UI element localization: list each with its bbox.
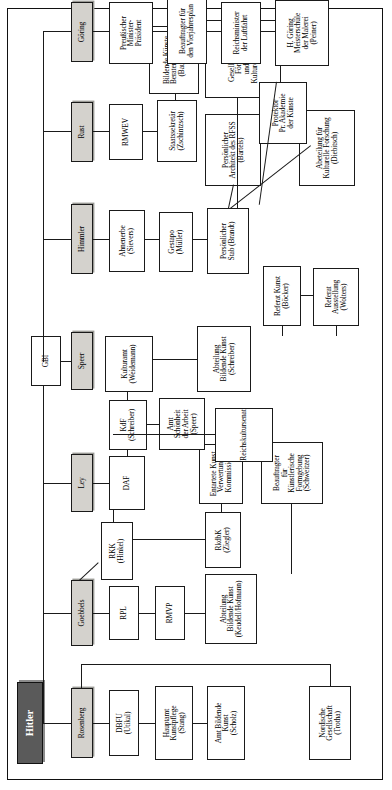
node-rmwev[interactable]: RMWEV xyxy=(109,104,143,160)
line-rkdbk-entartete xyxy=(221,503,222,512)
node-reichskultursenat-label: Reichskultursenat xyxy=(240,409,248,460)
line-hitler-ley-h xyxy=(43,483,44,614)
node-staatssekretaer-label: Staatssekretär(Zschintzsch) xyxy=(169,111,184,151)
node-dbfu[interactable]: DBFU(Utikal) xyxy=(109,690,139,756)
node-gbi[interactable]: GBI xyxy=(31,336,61,386)
line-staatssek-baudissin xyxy=(175,93,176,100)
line-persstab-gesellschaft xyxy=(237,97,238,208)
line-himmler-persstab xyxy=(193,239,207,240)
line-goering-preuss xyxy=(93,31,109,32)
node-ley-label: Ley xyxy=(78,477,86,488)
node-hitler[interactable]: Hitler xyxy=(17,682,43,764)
line-dbfu-hauptamt xyxy=(139,723,155,724)
node-protektor[interactable]: ProtektorPr. Akademieder Künste xyxy=(259,82,307,144)
line-hitler-ley xyxy=(43,483,71,484)
node-referat-kunst-label: Referat Kunst(Böcker) xyxy=(274,276,289,316)
node-gestapo[interactable]: Gestapo(Müller) xyxy=(159,212,193,272)
node-vierjahresplan-label: Beauftragter fürden Vierjahresplan xyxy=(179,4,194,58)
node-bartels-label: PersönlicherArchitekt des RFSS(Bartels) xyxy=(222,122,245,179)
node-nordische-label: NordischeGesellschaft(Trotha) xyxy=(319,705,342,740)
node-speer-label: Speer xyxy=(78,353,86,369)
line-hauptamt-amtbk xyxy=(193,723,207,724)
node-reichskultursenat[interactable]: Reichskultursenat xyxy=(215,408,273,462)
line-rpl-rmvp xyxy=(139,613,155,614)
node-kdf[interactable]: KdF(Schreiber) xyxy=(109,400,147,450)
node-abt-kulturelle-forschung-label: Abeteilung fürKulturelle Forschung(Diebi… xyxy=(316,118,339,179)
node-schweitzer-label: BeauftragterfürKünstlerischeFormgebung(S… xyxy=(273,453,311,492)
line-daf-kdf xyxy=(127,449,128,456)
node-goebbels[interactable]: Goebbels xyxy=(71,580,93,646)
node-rust-label: Rust xyxy=(78,125,86,138)
node-kulturamt[interactable]: Kulturamt(Weidemann) xyxy=(105,336,153,392)
node-himmler[interactable]: Himmler xyxy=(71,204,93,274)
node-preussischer-mp-label: PreußischerMinister-Präsident xyxy=(120,16,143,50)
line-referatkunst-ausstellung xyxy=(301,295,313,296)
line-rosenberg-to-v xyxy=(81,664,82,688)
line-rmvp-abtbk xyxy=(185,613,205,614)
node-protektor-label: ProtektorPr. Akademieder Künste xyxy=(272,94,295,133)
node-daf-label: DAF xyxy=(123,476,131,491)
line-hitler-goering xyxy=(43,31,71,32)
line-to-reichskultursenat xyxy=(113,434,215,435)
line-gbi-ausstellung xyxy=(336,325,337,336)
line-kdf-amtschoen xyxy=(147,424,159,425)
node-nordische-gesellschaft[interactable]: NordischeGesellschaft(Trotha) xyxy=(309,686,351,760)
node-abt-bk-keudell[interactable]: AbteilungBildende Kunst(Keudell/Hofmann) xyxy=(205,574,257,644)
node-rpl-label: RPL xyxy=(120,606,128,619)
node-rmwev-label: RMWEV xyxy=(122,118,130,146)
node-abt-bk-keudell-label: AbteilungBildende Kunst(Keudell/Hofmann) xyxy=(220,581,243,638)
line-abtbk-schweitzer xyxy=(291,503,292,574)
node-daf[interactable]: DAF xyxy=(109,456,145,510)
line-speer-gbi xyxy=(61,361,71,362)
node-amt-bildende-kunst[interactable]: Amt BildendeKunst(Scholz) xyxy=(207,686,245,760)
node-referat-ausstellung[interactable]: ReferatAusstellung(Wolters) xyxy=(313,268,359,326)
line-hitler-himmler-h xyxy=(43,239,44,362)
line-v-to-nordische xyxy=(330,664,331,686)
node-amt-schoenheit[interactable]: AmtSchönheitder Arbeit(Speer) xyxy=(159,398,205,450)
node-ahnenerbe[interactable]: Ahnenerbe(Sievers) xyxy=(109,210,145,272)
line-goering-protektor-stub xyxy=(83,61,84,62)
node-ley[interactable]: Ley xyxy=(71,454,93,512)
node-staatssekretaer[interactable]: Staatssekretär(Zschintzsch) xyxy=(157,100,197,162)
node-luftfahrt[interactable]: Reichsministerder Luftfahrt xyxy=(221,2,261,64)
node-dbfu-label: DBFU(Utikal) xyxy=(116,712,131,735)
line-kulturamt-abtbks xyxy=(153,359,197,360)
line-hitler-goebbels-h xyxy=(43,613,44,724)
line-hitler-goering-h xyxy=(43,31,44,132)
node-peiner[interactable]: H. GöringMeisterschuleder Malerei(Peiner… xyxy=(275,0,329,66)
line-gbi-referatkunst xyxy=(282,325,283,336)
node-amt-bildende-kunst-label: Amt BildendeKunst(Scholz) xyxy=(215,703,238,743)
node-rmvp-label: RMVP xyxy=(166,603,174,624)
node-goering[interactable]: Göring xyxy=(71,2,93,62)
node-persoenlicher-stab[interactable]: PersönlicherStab (Brandt) xyxy=(207,208,249,274)
node-rpl[interactable]: RPL xyxy=(109,586,139,640)
node-rmvp[interactable]: RMVP xyxy=(155,586,185,640)
node-referat-kunst[interactable]: Referat Kunst(Böcker) xyxy=(263,266,301,326)
node-rkdbk[interactable]: RkdbK(Ziegler) xyxy=(205,512,241,568)
node-bartels[interactable]: PersönlicherArchitekt des RFSS(Bartels) xyxy=(205,114,261,186)
node-hitler-label: Hitler xyxy=(25,710,36,736)
node-peiner-label: H. GöringMeisterschuleder Malerei(Peiner… xyxy=(287,13,317,53)
line-hitler-rust-h xyxy=(43,131,44,240)
chart-canvas: Hitler Rosenberg DBFU(Utikal) HauptamtKu… xyxy=(9,10,381,780)
node-speer[interactable]: Speer xyxy=(71,332,93,390)
line-goebbels-rpl xyxy=(93,613,109,614)
node-vierjahresplan[interactable]: Beauftragter fürden Vierjahresplan xyxy=(167,0,207,64)
node-goebbels-label: Goebbels xyxy=(78,599,86,626)
line-hitler-rosenberg xyxy=(43,723,71,724)
node-rkk-label: RKK(Hinkel) xyxy=(109,539,124,563)
node-persoenlicher-stab-label: PersönlicherStab (Brandt) xyxy=(220,222,235,261)
node-rkk[interactable]: RKK(Hinkel) xyxy=(101,522,133,580)
node-goering-label: Göring xyxy=(78,22,86,42)
node-abt-bk-schreiber[interactable]: AbteilungBildende Kunst(Schreiber) xyxy=(197,326,251,392)
line-goering-luftfahrt xyxy=(207,31,221,32)
node-preussischer-mp[interactable]: PreußischerMinister-Präsident xyxy=(109,2,153,64)
node-rkdbk-label: RkdbK(Ziegler) xyxy=(215,527,230,552)
node-rust[interactable]: Rust xyxy=(71,102,93,162)
line-hitler-himmler xyxy=(43,239,71,240)
node-hauptamt[interactable]: HauptamtKunstpflege(Stang) xyxy=(155,686,193,760)
node-kulturamt-label: Kulturamt(Weidemann) xyxy=(121,345,136,384)
line-nordische-v xyxy=(81,664,330,665)
node-rosenberg[interactable]: Rosenberg xyxy=(71,688,93,758)
node-ahnenerbe-label: Ahnenerbe(Sievers) xyxy=(119,225,134,257)
